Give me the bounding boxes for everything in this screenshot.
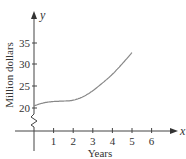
y-tick-label: 35 [19, 37, 31, 49]
x-axis-var: x [179, 124, 186, 138]
x-tick-label: 6 [149, 135, 155, 147]
y-tick-label: 30 [19, 58, 31, 70]
y-tick-label: 20 [19, 102, 31, 114]
x-tick-label: 5 [129, 135, 135, 147]
x-axis-arrow-icon [170, 128, 178, 134]
y-axis-title: Million dollars [3, 42, 15, 108]
y-axis-break-icon [31, 114, 37, 127]
y-tick-label: 25 [19, 80, 31, 92]
data-line [34, 53, 132, 106]
x-tick-label: 1 [51, 135, 57, 147]
y-axis-var: y [39, 8, 46, 22]
x-axis-title: Years [88, 147, 113, 159]
x-tick-label: 2 [70, 135, 76, 147]
y-axis-arrow-icon [31, 11, 37, 19]
chart: y x 20 25 30 35 1 2 3 4 5 6 Years Millio… [0, 0, 186, 159]
x-tick-label: 3 [90, 135, 96, 147]
x-tick-label: 4 [110, 135, 116, 147]
